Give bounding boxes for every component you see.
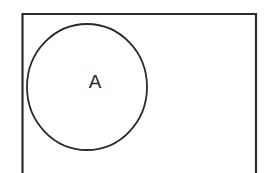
set-a-label: A: [89, 71, 102, 94]
universal-set-rectangle: [23, 14, 257, 173]
set-a-circle: [27, 24, 147, 150]
venn-diagram: A: [0, 0, 269, 173]
